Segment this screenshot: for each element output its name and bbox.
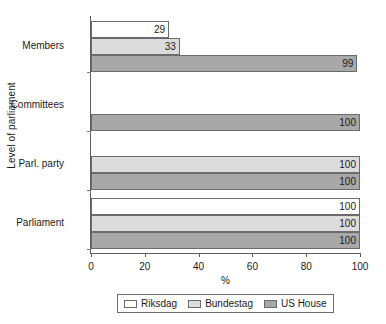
category-label: Parl. party	[0, 158, 64, 169]
x-axis-line	[90, 253, 361, 254]
bar[interactable]: 100	[91, 156, 360, 173]
x-axis-tick	[252, 253, 253, 257]
bar-chart-figure: Level of parliament 293399Members100Comm…	[0, 0, 386, 324]
bar-group: 100Committees	[91, 80, 360, 131]
x-axis-tick	[360, 253, 361, 257]
bar-value-label: 100	[339, 117, 359, 128]
bar[interactable]: 100	[91, 114, 360, 131]
bar-row: 100	[91, 114, 360, 131]
chart-legend: RiksdagBundestagUS House	[117, 294, 334, 313]
bar-row: 100	[91, 215, 360, 232]
plot-area: 293399Members100Committees100100Parl. pa…	[91, 17, 360, 253]
legend-label: US House	[281, 298, 327, 309]
bar-row: 100	[91, 232, 360, 249]
category-label: Parliament	[0, 217, 64, 228]
bar[interactable]: 100	[91, 215, 360, 232]
bar-group: 100100100Parliament	[91, 198, 360, 249]
bar[interactable]: 100	[91, 173, 360, 190]
bar[interactable]: 29	[91, 21, 169, 38]
category-label: Members	[0, 40, 64, 51]
legend-swatch-icon	[124, 300, 137, 308]
category-label: Committees	[0, 99, 64, 110]
legend-swatch-icon	[188, 300, 201, 308]
bar-value-label: 100	[339, 159, 359, 170]
x-axis-tick-label: 100	[352, 261, 369, 272]
bar-group: 100100Parl. party	[91, 139, 360, 190]
bar-value-label: 29	[154, 24, 168, 35]
bar-value-label: 100	[339, 176, 359, 187]
bar-group: 293399Members	[91, 21, 360, 72]
x-axis-tick	[306, 253, 307, 257]
bar-row: 99	[91, 55, 360, 72]
legend-item[interactable]: US House	[264, 298, 327, 309]
bar[interactable]: 100	[91, 198, 360, 215]
x-axis-tick-label: 20	[139, 261, 150, 272]
bar-value-label: 100	[339, 218, 359, 229]
y-axis-title: Level of parliament	[2, 0, 20, 250]
legend-label: Bundestag	[205, 298, 253, 309]
bar[interactable]: 99	[91, 55, 357, 72]
bar-row: 29	[91, 21, 360, 38]
x-axis-tick-label: 40	[193, 261, 204, 272]
y-axis-title-text: Level of parliament	[6, 82, 17, 168]
bar-row	[91, 80, 360, 97]
y-axis-tick	[87, 131, 91, 132]
x-axis-tick	[91, 253, 92, 257]
bar-row: 100	[91, 198, 360, 215]
x-axis-tick	[199, 253, 200, 257]
legend-label: Riksdag	[141, 298, 177, 309]
y-axis-tick	[87, 249, 91, 250]
legend-swatch-icon	[264, 300, 277, 308]
x-axis-title: %	[91, 275, 360, 286]
x-axis-tick-label: 0	[88, 261, 94, 272]
bar-value-label: 100	[339, 235, 359, 246]
y-axis-tick	[87, 190, 91, 191]
x-axis-tick	[145, 253, 146, 257]
y-axis-tick	[87, 72, 91, 73]
bar-value-label: 99	[342, 58, 356, 69]
legend-item[interactable]: Riksdag	[124, 298, 177, 309]
bar[interactable]: 33	[91, 38, 180, 55]
bar-row	[91, 139, 360, 156]
bar-row: 100	[91, 156, 360, 173]
bar[interactable]: 100	[91, 232, 360, 249]
bar-value-label: 33	[165, 41, 179, 52]
bar-row: 100	[91, 173, 360, 190]
x-axis-tick-label: 60	[247, 261, 258, 272]
bar-row: 33	[91, 38, 360, 55]
bar-value-label: 100	[339, 201, 359, 212]
x-axis-tick-label: 80	[301, 261, 312, 272]
legend-item[interactable]: Bundestag	[188, 298, 253, 309]
bar-row	[91, 97, 360, 114]
